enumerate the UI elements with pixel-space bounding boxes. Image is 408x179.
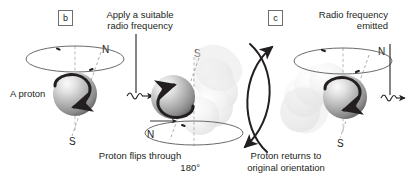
- precession-direction-marker-c: [322, 50, 325, 51]
- precession-direction-marker-flip: [182, 125, 185, 126]
- diagram-vector-layer: [0, 0, 408, 179]
- precession-direction-marker-b2: [90, 69, 93, 70]
- precession-direction-marker-b: [57, 49, 60, 50]
- panel-c-graphic: [280, 48, 392, 138]
- precession-direction-marker-c2: [356, 71, 359, 72]
- rf-input-arrow: [127, 34, 153, 99]
- rf-emitted-arrow: [381, 44, 405, 101]
- panel-b-graphic: [26, 46, 124, 136]
- nmr-proton-diagram: b c Apply a suitable radio frequency Rad…: [0, 0, 408, 179]
- flip-curved-arrow: [245, 44, 270, 147]
- panel-flip-graphic: [145, 45, 243, 146]
